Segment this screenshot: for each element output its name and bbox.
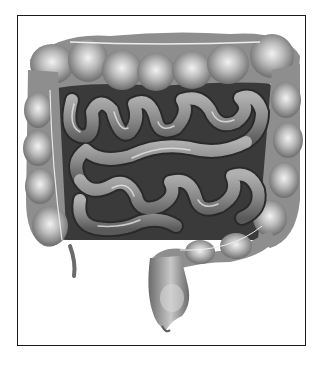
intestines-illustration (0, 0, 324, 366)
appendix (70, 246, 75, 276)
rectum (148, 256, 189, 331)
